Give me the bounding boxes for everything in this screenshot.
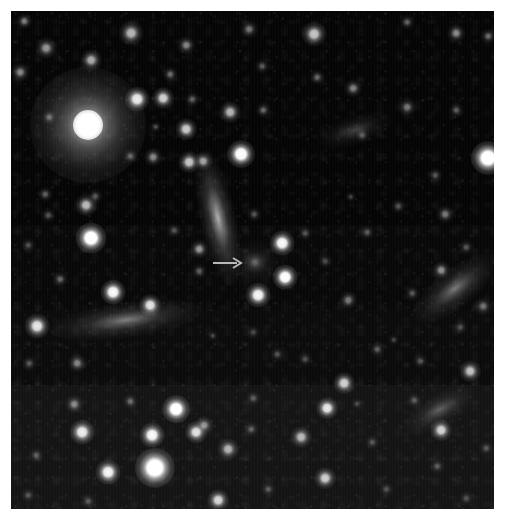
background-band-0 [11, 11, 494, 225]
figure-root [0, 0, 509, 529]
background-band-3 [11, 385, 494, 509]
sky-image-frame [11, 11, 494, 509]
background-band-2 [11, 310, 494, 385]
background-band-1 [11, 225, 494, 310]
